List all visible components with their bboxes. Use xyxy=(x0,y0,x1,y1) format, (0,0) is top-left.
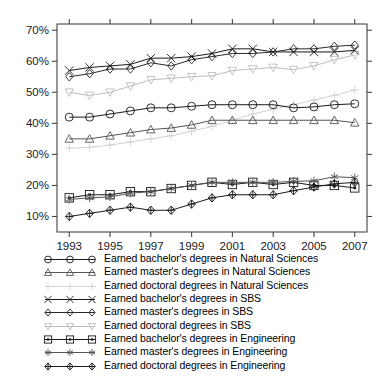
legend-label: Earned doctoral degrees in Natural Scien… xyxy=(104,280,308,291)
chart-legend: Earned bachelor's degrees in Natural Sci… xyxy=(0,252,392,380)
legend-label: Earned master's degrees in SBS xyxy=(104,306,253,317)
legend-label: Earned bachelor's degrees in Engineering xyxy=(104,333,295,344)
legend-marker-square-dot-icon xyxy=(42,332,98,345)
x-tick-label: 2005 xyxy=(301,240,327,250)
x-tick-label: 2007 xyxy=(342,240,368,250)
data-series xyxy=(65,52,359,100)
y-tick-label: 60% xyxy=(26,55,49,67)
legend-label: Earned master's degrees in Engineering xyxy=(104,346,287,357)
legend-marker-plus-icon xyxy=(42,279,98,292)
line-chart: 10%20%30%40%50%60%70%1993199519971999200… xyxy=(0,0,392,250)
legend-marker-triangle-up-icon xyxy=(42,265,98,278)
legend-marker-diamond-icon xyxy=(42,305,98,318)
legend-item[interactable]: Earned master's degrees in Engineering xyxy=(0,345,392,358)
legend-item[interactable]: Earned master's degrees in SBS xyxy=(0,305,392,318)
y-tick-label: 40% xyxy=(26,117,49,129)
y-tick-label: 30% xyxy=(26,148,49,160)
y-tick-label: 20% xyxy=(26,179,49,191)
legend-marker-diamond-plus-icon xyxy=(42,359,98,372)
legend-marker-triangle-down-icon xyxy=(42,319,98,332)
legend-label: Earned doctoral degrees in Engineering xyxy=(104,360,285,371)
x-tick-label: 1999 xyxy=(179,240,205,250)
legend-label: Earned doctoral degrees in SBS xyxy=(104,320,251,331)
y-tick-label: 50% xyxy=(26,86,49,98)
x-tick-label: 1993 xyxy=(56,240,82,250)
y-tick-label: 70% xyxy=(26,24,49,36)
legend-marker-x-icon xyxy=(42,292,98,305)
legend-marker-circle-icon xyxy=(42,252,98,265)
legend-item[interactable]: Earned master's degrees in Natural Scien… xyxy=(0,265,392,278)
legend-label: Earned bachelor's degrees in Natural Sci… xyxy=(104,253,318,264)
legend-item[interactable]: Earned bachelor's degrees in Natural Sci… xyxy=(0,252,392,265)
legend-item[interactable]: Earned doctoral degrees in SBS xyxy=(0,318,392,331)
x-tick-label: 1997 xyxy=(138,240,164,250)
x-tick-label: 2003 xyxy=(260,240,286,250)
legend-item[interactable]: Earned bachelor's degrees in Engineering xyxy=(0,332,392,345)
legend-label: Earned bachelor's degrees in SBS xyxy=(104,293,261,304)
data-series xyxy=(66,41,359,81)
chart-figure: 10%20%30%40%50%60%70%1993199519971999200… xyxy=(0,0,392,380)
y-tick-label: 10% xyxy=(26,210,49,222)
legend-label: Earned master's degrees in Natural Scien… xyxy=(104,266,310,277)
plot-area: 10%20%30%40%50%60%70%1993199519971999200… xyxy=(0,0,392,250)
legend-item[interactable]: Earned doctoral degrees in Natural Scien… xyxy=(0,279,392,292)
x-tick-label: 1995 xyxy=(97,240,123,250)
legend-item[interactable]: Earned bachelor's degrees in SBS xyxy=(0,292,392,305)
legend-item[interactable]: Earned doctoral degrees in Engineering xyxy=(0,358,392,371)
x-tick-label: 2001 xyxy=(220,240,246,250)
legend-marker-asterisk-icon xyxy=(42,345,98,358)
